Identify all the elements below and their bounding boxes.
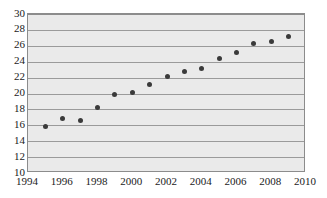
data-point <box>112 92 117 97</box>
gridline <box>28 14 304 15</box>
y-axis-tick-label: 28 <box>1 23 25 34</box>
plot-area <box>27 13 305 172</box>
data-point <box>217 56 222 61</box>
data-point <box>43 124 48 129</box>
gridline <box>28 46 304 47</box>
y-axis-tick-label: 12 <box>1 151 25 162</box>
x-axis-tick-label: 2010 <box>285 176 325 187</box>
gridline <box>28 125 304 126</box>
data-point <box>95 105 100 110</box>
scatter-chart: 1012141618202224262830 19941996199820002… <box>0 0 327 198</box>
gridline <box>28 141 304 142</box>
gridline <box>28 94 304 95</box>
y-axis-tick-label: 16 <box>1 119 25 130</box>
data-point <box>165 74 170 79</box>
scan-artifact <box>0 0 327 10</box>
y-axis-tick-label: 30 <box>1 8 25 19</box>
y-axis-tick-label: 22 <box>1 71 25 82</box>
data-point <box>286 34 291 39</box>
data-point <box>130 90 135 95</box>
data-point <box>269 39 274 44</box>
y-axis-tick-label: 20 <box>1 87 25 98</box>
y-axis-tick-labels: 1012141618202224262830 <box>0 0 25 198</box>
data-point <box>147 82 152 87</box>
y-axis-tick-label: 14 <box>1 135 25 146</box>
y-axis-tick-label: 26 <box>1 39 25 50</box>
x-axis-tick-labels: 199419961998200020022004200620082010 <box>0 176 327 190</box>
gridline <box>28 109 304 110</box>
gridline <box>28 62 304 63</box>
data-point <box>182 69 187 74</box>
data-point <box>60 116 65 121</box>
data-point <box>234 50 239 55</box>
y-axis-tick-label: 18 <box>1 103 25 114</box>
gridline <box>28 30 304 31</box>
data-point <box>199 66 204 71</box>
data-point <box>78 118 83 123</box>
gridline <box>28 157 304 158</box>
y-axis-tick-label: 24 <box>1 55 25 66</box>
